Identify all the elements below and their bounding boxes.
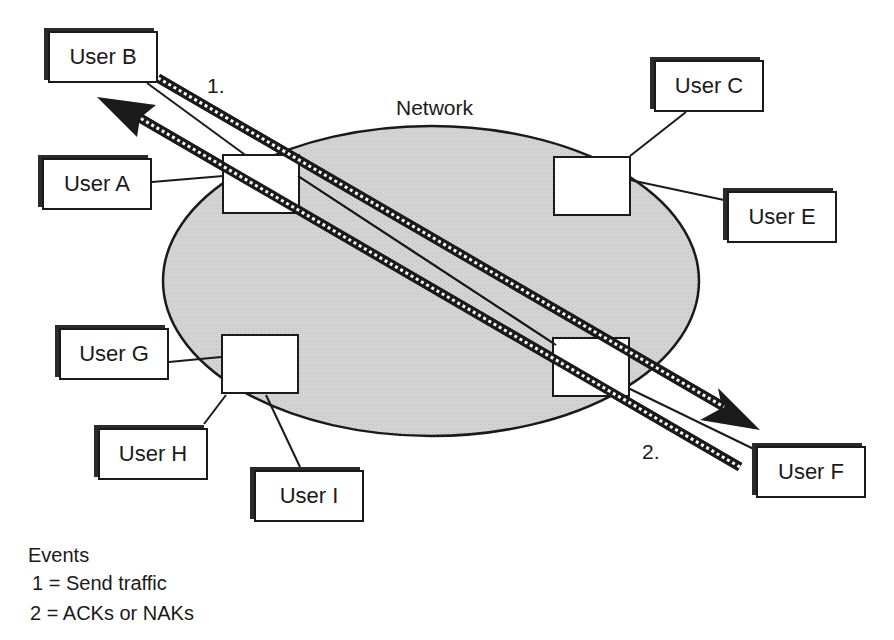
user-b-label: User B (69, 44, 136, 70)
user-a-box: User A (42, 158, 152, 210)
user-e-box: User E (727, 191, 837, 243)
legend-item-send-traffic: 1 = Send traffic (28, 568, 194, 598)
user-g-label: User G (79, 341, 149, 367)
user-i-label: User I (280, 483, 339, 509)
user-h-label: User H (119, 441, 187, 467)
event-marker-2: 2. (642, 440, 660, 464)
user-a-label: User A (64, 171, 130, 197)
user-c-box: User C (654, 60, 764, 112)
network-node-bottom-right (552, 337, 630, 397)
network-node-bottom-left (221, 334, 299, 394)
network-node-top-left (222, 154, 300, 214)
user-e-label: User E (748, 204, 815, 230)
user-i-box: User I (254, 470, 364, 522)
user-f-box: User F (756, 446, 866, 498)
user-b-box: User B (48, 31, 158, 83)
event-marker-1: 1. (207, 74, 225, 98)
user-c-label: User C (675, 73, 743, 99)
events-legend: Events 1 = Send traffic 2 = ACKs or NAKs (28, 568, 194, 628)
user-h-box: User H (98, 428, 208, 480)
legend-item-acks-naks: 2 = ACKs or NAKs (28, 598, 194, 628)
network-node-top-right (553, 156, 631, 216)
user-f-label: User F (778, 459, 844, 485)
network-label: Network (396, 96, 473, 120)
legend-title: Events (28, 540, 89, 570)
user-g-box: User G (59, 328, 169, 380)
